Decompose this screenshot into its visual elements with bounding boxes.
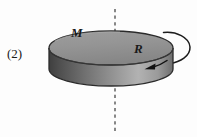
disk-diagram-svg — [0, 0, 197, 137]
item-number-label: (2) — [7, 47, 22, 60]
radius-label: R — [134, 42, 143, 55]
disk-solid — [49, 31, 173, 86]
mass-label: M — [71, 26, 83, 39]
physics-figure-disk: (2) M R — [0, 0, 197, 137]
